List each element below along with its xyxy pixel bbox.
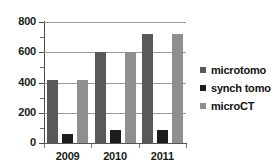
bar <box>157 130 168 143</box>
x-axis-label: 2011 <box>139 150 186 162</box>
legend-label: synch tomo <box>211 82 271 94</box>
legend-item: synch tomo <box>200 80 271 96</box>
gridline <box>44 22 186 23</box>
bar <box>125 52 136 143</box>
x-axis-label: 2009 <box>44 150 91 162</box>
y-axis-label: 0 <box>2 137 36 148</box>
gridline <box>44 113 186 114</box>
gridline <box>44 83 186 84</box>
x-axis-tick <box>91 144 92 148</box>
bar <box>142 34 153 143</box>
chart-legend: microtomosynch tomomicroCT <box>200 62 271 116</box>
legend-swatch-icon <box>200 85 206 91</box>
legend-swatch-icon <box>200 103 206 109</box>
gridline <box>44 52 186 53</box>
legend-item: microtomo <box>200 62 271 78</box>
y-axis-label: 600 <box>2 46 36 57</box>
x-axis-tick <box>186 144 187 148</box>
plot-area <box>44 22 186 143</box>
x-axis-line <box>44 143 187 144</box>
bar <box>95 52 106 143</box>
bar <box>110 130 121 143</box>
legend-item: microCT <box>200 98 271 114</box>
bar <box>62 134 73 143</box>
y-axis-label: 400 <box>2 77 36 88</box>
legend-swatch-icon <box>200 67 206 73</box>
x-axis-tick <box>139 144 140 148</box>
y-axis-label: 200 <box>2 107 36 118</box>
x-axis-label: 2010 <box>91 150 138 162</box>
y-axis-label: 800 <box>2 16 36 27</box>
bar <box>77 80 88 143</box>
bar-chart: 0200400600800 200920102011 microtomosync… <box>0 0 278 167</box>
bar <box>47 80 58 143</box>
bar <box>172 34 183 143</box>
legend-label: microCT <box>211 100 254 112</box>
x-axis-tick <box>44 144 45 148</box>
legend-label: microtomo <box>211 64 266 76</box>
